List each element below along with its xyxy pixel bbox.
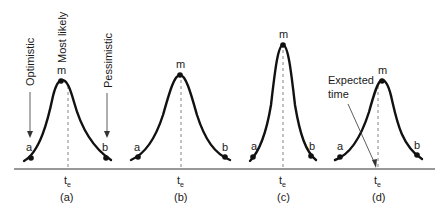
label-optimistic: Optimistic (24, 37, 36, 86)
label-a: a (251, 140, 258, 152)
point-a (135, 154, 141, 160)
label-te: te (279, 174, 286, 188)
label-a: a (26, 141, 33, 153)
caption-d: (d) (372, 191, 385, 203)
label-te: te (177, 174, 184, 188)
point-b (414, 152, 420, 158)
distribution-curve (131, 75, 230, 160)
pert-time-estimate-diagram: a m b te (a) Optimistic Most likely Pess… (0, 0, 446, 220)
panel-b: a m b te (b) (131, 58, 230, 203)
point-a (337, 154, 343, 160)
label-time: time (328, 88, 349, 100)
label-a: a (134, 141, 141, 153)
label-b: b (102, 141, 108, 153)
caption-c: (c) (277, 191, 290, 203)
distribution-curve (24, 80, 111, 161)
label-te: te (64, 174, 71, 188)
expected-time-arrowhead (372, 159, 377, 168)
label-m: m (279, 28, 288, 40)
point-m (58, 78, 64, 84)
point-m (280, 42, 286, 48)
label-b: b (414, 139, 420, 151)
label-te: te (374, 174, 381, 188)
label-m: m (378, 64, 387, 76)
expected-time-arrow (348, 104, 375, 164)
label-m: m (57, 64, 66, 76)
point-b (222, 154, 228, 160)
point-m (177, 72, 183, 78)
label-b: b (222, 141, 228, 153)
point-a (250, 154, 256, 160)
caption-a: (a) (60, 191, 73, 203)
label-most-likely: Most likely (56, 11, 68, 63)
label-pessimistic: Pessimistic (102, 32, 114, 88)
pessimistic-arrowhead (104, 131, 110, 138)
label-m: m (176, 58, 185, 70)
label-a: a (337, 140, 344, 152)
panel-d: a m b te (d) Expected time (328, 64, 422, 203)
label-expected: Expected (328, 74, 374, 86)
point-m (379, 78, 385, 84)
caption-b: (b) (174, 191, 187, 203)
point-a (28, 155, 34, 161)
optimistic-arrowhead (27, 131, 33, 138)
panel-c: a m b te (c) (250, 28, 316, 203)
point-b (308, 153, 314, 159)
point-b (103, 155, 109, 161)
panel-a: a m b te (a) Optimistic Most likely Pess… (24, 11, 114, 203)
label-b: b (309, 140, 315, 152)
